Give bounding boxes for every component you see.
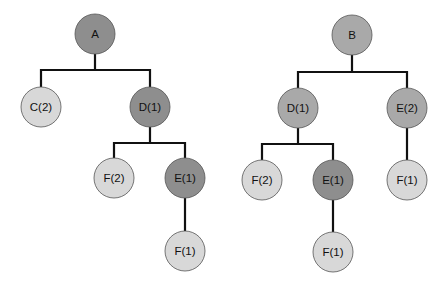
node-f1: F(1) [165,231,205,271]
svg-text:F(2): F(2) [251,174,272,186]
node-e1: E(1) [165,158,205,198]
svg-text:F(1): F(1) [396,174,417,186]
node-e1-b: E(1) [313,160,353,200]
svg-text:E(1): E(1) [322,174,344,186]
edge-b-children [298,55,407,88]
edge-a-children [41,54,150,87]
node-d1-b: D(1) [278,88,318,128]
tree-a-edges [41,54,185,231]
svg-text:F(1): F(1) [322,246,343,258]
node-f1-right-b: F(1) [387,160,427,200]
node-d1: D(1) [130,87,170,127]
edge-d1-children [114,127,185,158]
node-f1-b: F(1) [313,232,353,272]
node-c2: C(2) [21,87,61,127]
svg-text:D(1): D(1) [287,102,310,114]
node-f2: F(2) [94,158,134,198]
svg-text:D(1): D(1) [139,101,162,113]
svg-text:F(2): F(2) [103,172,124,184]
node-f2-b: F(2) [242,160,282,200]
node-e2-b: E(2) [387,88,427,128]
svg-text:F(1): F(1) [174,245,195,257]
svg-text:A: A [91,28,99,40]
svg-text:E(1): E(1) [174,172,196,184]
edge-d1-children-b [262,128,333,160]
svg-text:C(2): C(2) [30,101,53,113]
svg-text:E(2): E(2) [396,102,418,114]
svg-text:B: B [348,29,356,41]
node-b: B [332,15,372,55]
tree-b-edges [262,55,407,232]
tree-diagram: A C(2) D(1) F(2) E(1) F(1) B D(1) E(2) F… [0,0,448,288]
node-a: A [75,14,115,54]
